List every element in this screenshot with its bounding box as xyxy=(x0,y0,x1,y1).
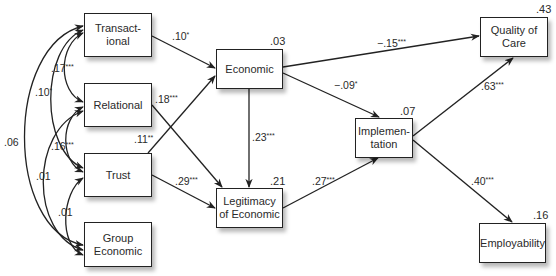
path-economic-implementation xyxy=(283,73,379,117)
node-transactional: Transact-ional xyxy=(84,13,152,57)
r2-legitimacy: .21 xyxy=(270,175,285,187)
node-label-line2: of Economic xyxy=(219,208,280,220)
node-label-line1: Quality of xyxy=(491,24,537,36)
coef-transactional-economic: .10* xyxy=(172,30,189,42)
coef-economic-legitimacy: .23*** xyxy=(252,131,275,143)
node-relational: Relational xyxy=(84,83,152,127)
node-trust: Trust xyxy=(84,153,152,197)
coef-trust-legitimacy: .29*** xyxy=(175,175,198,187)
path-implementation-quality xyxy=(413,58,513,136)
coef-economic-implementation: −.09* xyxy=(334,79,357,91)
corr-label-transactional-relational: .17*** xyxy=(51,62,74,74)
coef-trust-economic: .11** xyxy=(134,133,153,145)
corr-label-trust-group: .01 xyxy=(58,206,73,218)
coef-implementation-quality: .63*** xyxy=(481,80,504,92)
path-trust-economic xyxy=(148,76,215,153)
node-label-line1: Legitimacy xyxy=(223,195,276,207)
node-quality-of-care: Quality ofCare xyxy=(480,17,548,57)
path-implementation-employability xyxy=(413,140,512,222)
r2-economic: .03 xyxy=(270,35,285,47)
coef-legitimacy-implementation: .27*** xyxy=(312,175,335,187)
r2-quality-of-care: .43 xyxy=(536,3,551,15)
r2-implementation: .07 xyxy=(400,105,415,117)
node-label-line1: Group xyxy=(103,232,134,244)
corr-transactional-group xyxy=(25,26,84,245)
corr-label-transactional-trust: .10* xyxy=(35,86,52,98)
corr-label-transactional-group: .06 xyxy=(4,136,19,148)
node-label-line2: tation xyxy=(371,138,398,150)
node-label-line2: Economic xyxy=(94,245,142,257)
node-employability: Employability xyxy=(479,223,546,263)
node-label-line1: Transact- xyxy=(95,22,141,34)
node-label: Relational xyxy=(94,99,143,112)
coef-implementation-employability: .40*** xyxy=(471,175,494,187)
node-group-economic: GroupEconomic xyxy=(84,222,152,267)
corr-label-relational-group: .01 xyxy=(36,170,51,182)
node-legitimacy: Legitimacyof Economic xyxy=(216,188,283,228)
node-label: Employability xyxy=(480,237,545,250)
corr-label-relational-trust: .16*** xyxy=(51,140,74,152)
r2-employability: .16 xyxy=(533,209,548,221)
node-label-line2: Care xyxy=(502,37,526,49)
coef-economic-quality: −.15*** xyxy=(377,37,406,49)
node-label-line1: Implemen- xyxy=(358,125,410,137)
node-label-line2: ional xyxy=(106,35,129,47)
coef-relational-legitimacy: .18*** xyxy=(155,93,178,105)
node-label: Economic xyxy=(225,63,273,76)
node-implementation: Implemen-tation xyxy=(355,118,413,158)
node-label: Trust xyxy=(106,169,131,182)
node-economic: Economic xyxy=(216,49,283,89)
